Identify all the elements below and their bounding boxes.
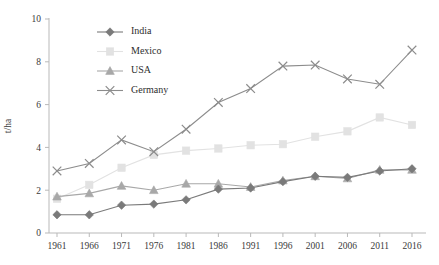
data-point-square [86, 181, 93, 188]
chart-canvas: 0246810 19611966197119761981198619911996… [0, 0, 439, 265]
data-point-diamond [53, 211, 61, 219]
y-tick-label: 6 [36, 100, 41, 110]
x-tick-label: 1966 [80, 241, 99, 251]
line-chart: 0246810 19611966197119761981198619911996… [0, 0, 439, 265]
y-axis: 0246810 [32, 14, 50, 238]
series-line [57, 117, 412, 198]
data-point-square [106, 48, 113, 55]
data-point-square [215, 145, 222, 152]
data-point-triangle [117, 182, 126, 190]
x-tick-label: 1971 [112, 241, 131, 251]
legend-label: Mexico [131, 45, 162, 56]
data-point-cross [53, 167, 62, 176]
data-point-square [247, 142, 254, 149]
data-point-square [376, 114, 383, 121]
y-tick-label: 0 [36, 228, 41, 238]
legend-item-germany[interactable]: Germany [97, 84, 168, 95]
data-point-diamond [85, 211, 93, 219]
data-point-diamond [150, 200, 158, 208]
data-point-cross [85, 159, 94, 168]
data-point-square [182, 147, 189, 154]
series-germany [53, 46, 417, 176]
legend-label: Germany [131, 84, 168, 95]
y-tick-label: 10 [32, 14, 42, 24]
data-point-square [118, 164, 125, 171]
x-tick-label: 2011 [370, 241, 389, 251]
legend-label: USA [131, 64, 152, 75]
data-point-diamond [106, 28, 114, 36]
x-tick-label: 2001 [306, 241, 325, 251]
x-tick-label: 1996 [273, 241, 292, 251]
y-tick-label: 8 [36, 57, 41, 67]
legend-item-india[interactable]: India [97, 25, 152, 36]
x-tick-label: 2016 [403, 241, 422, 251]
data-point-cross [214, 98, 223, 107]
data-point-square [344, 128, 351, 135]
x-tick-label: 1991 [241, 241, 260, 251]
x-tick-label: 1976 [144, 241, 163, 251]
y-tick-label: 2 [36, 186, 41, 196]
data-point-diamond [279, 177, 287, 185]
legend-item-mexico[interactable]: Mexico [97, 45, 162, 56]
data-point-cross [408, 46, 417, 55]
x-tick-label: 2006 [338, 241, 357, 251]
series-usa [53, 165, 417, 200]
data-point-diamond [182, 196, 190, 204]
data-point-square [408, 121, 415, 128]
data-point-cross [117, 136, 126, 145]
x-tick-label: 1986 [209, 241, 228, 251]
x-tick-label: 1961 [48, 241, 67, 251]
data-point-diamond [376, 167, 384, 175]
data-point-cross [246, 84, 255, 93]
series-india [53, 165, 416, 219]
y-axis-title: t/ha [3, 118, 13, 133]
x-axis: 1961196619711976198119861991199620012006… [48, 233, 427, 251]
data-point-cross [182, 125, 191, 134]
data-point-diamond [117, 201, 125, 209]
chart-legend: IndiaMexicoUSAGermany [97, 25, 168, 95]
y-tick-label: 4 [36, 143, 41, 153]
legend-item-usa[interactable]: USA [97, 64, 152, 75]
data-point-square [279, 140, 286, 147]
legend-label: India [131, 25, 152, 36]
x-tick-label: 1981 [177, 241, 196, 251]
data-point-square [311, 133, 318, 140]
data-point-diamond [246, 184, 254, 192]
